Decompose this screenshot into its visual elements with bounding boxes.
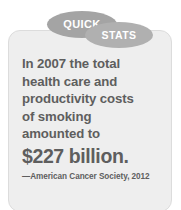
quick-stats-callout: QUICK STATS In 2007 the total health car… [0, 0, 181, 210]
stat-attribution: —American Cancer Society, 2012 [22, 172, 164, 181]
stat-line: amounted to [22, 125, 164, 143]
stat-headline-unit: billion. [64, 145, 129, 167]
stat-line: health care and [22, 73, 164, 91]
stat-headline-amount: $227 [22, 145, 64, 167]
stat-line: productivity costs [22, 90, 164, 108]
badge-stats-label: STATS [102, 29, 137, 41]
badge-stats: STATS [85, 22, 153, 48]
stat-headline: $227 billion. [22, 144, 164, 168]
stat-line: In 2007 the total [22, 55, 164, 73]
badge-group: QUICK STATS [0, 0, 181, 52]
stat-line: of smoking [22, 108, 164, 126]
stat-card-body: In 2007 the total health care and produc… [22, 55, 164, 181]
stat-body-text: In 2007 the total health care and produc… [22, 55, 164, 143]
